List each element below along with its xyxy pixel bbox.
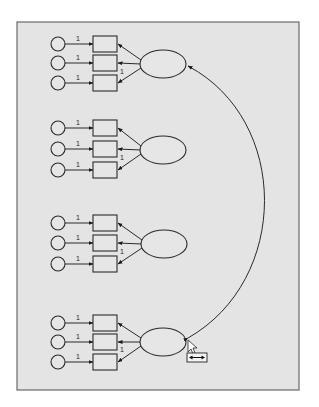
observed-variable-box[interactable] [93, 235, 117, 251]
path-coefficient-label: 1 [76, 314, 80, 321]
path-coefficient-label: 1 [76, 140, 80, 147]
observed-variable-box[interactable] [93, 55, 117, 71]
path-coefficient-label: 1 [76, 255, 80, 262]
error-term-circle[interactable] [51, 236, 65, 250]
observed-variable-box[interactable] [93, 334, 117, 350]
observed-variable-box[interactable] [93, 256, 117, 272]
observed-variable-box[interactable] [93, 36, 117, 52]
fixed-loading-label: 1 [120, 346, 124, 353]
error-term-circle[interactable] [51, 76, 65, 90]
observed-variable-box[interactable] [93, 141, 117, 157]
error-term-circle[interactable] [51, 216, 65, 230]
observed-variable-box[interactable] [93, 75, 117, 91]
latent-variable-ellipse[interactable] [140, 136, 186, 164]
latent-variable-ellipse[interactable] [141, 230, 187, 258]
error-term-circle[interactable] [51, 37, 65, 51]
sem-diagram-canvas[interactable]: 1111111111111111 [0, 0, 319, 407]
double-arrow-icon [187, 353, 207, 362]
latent-variable-ellipse[interactable] [140, 50, 186, 78]
error-term-circle[interactable] [51, 163, 65, 177]
error-term-circle[interactable] [51, 142, 65, 156]
observed-variable-box[interactable] [93, 215, 117, 231]
observed-variable-box[interactable] [93, 354, 117, 370]
error-term-circle[interactable] [51, 56, 65, 70]
path-coefficient-label: 1 [76, 35, 80, 42]
path-coefficient-label: 1 [76, 333, 80, 340]
path-coefficient-label: 1 [76, 74, 80, 81]
error-term-circle[interactable] [51, 316, 65, 330]
error-term-circle[interactable] [51, 335, 65, 349]
fixed-loading-label: 1 [120, 248, 124, 255]
observed-variable-box[interactable] [93, 315, 117, 331]
observed-variable-box[interactable] [93, 120, 117, 136]
path-coefficient-label: 1 [76, 214, 80, 221]
error-term-circle[interactable] [51, 121, 65, 135]
fixed-loading-label: 1 [120, 68, 124, 75]
path-coefficient-label: 1 [76, 54, 80, 61]
fixed-loading-label: 1 [120, 154, 124, 161]
observed-variable-box[interactable] [93, 162, 117, 178]
path-coefficient-label: 1 [76, 353, 80, 360]
error-term-circle[interactable] [51, 355, 65, 369]
error-term-circle[interactable] [51, 257, 65, 271]
path-coefficient-label: 1 [76, 234, 80, 241]
path-coefficient-label: 1 [76, 161, 80, 168]
latent-variable-ellipse[interactable] [140, 328, 186, 356]
path-coefficient-label: 1 [76, 119, 80, 126]
